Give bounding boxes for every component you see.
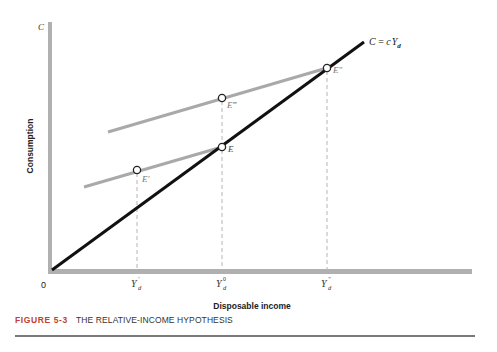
svg-text:′: ′ (138, 276, 140, 282)
y-axis-symbol: C (38, 22, 45, 32)
y-axis (48, 22, 52, 274)
svg-text:Y: Y (321, 278, 328, 289)
svg-text:″: ″ (328, 276, 331, 282)
label-e-triple: E‴ (226, 100, 237, 110)
point-e-double (323, 64, 330, 71)
label-e-double: E″ (332, 65, 342, 75)
origin-label: 0 (41, 280, 46, 290)
svg-text:d: d (223, 284, 227, 291)
long-run-line-label: C = cYd (369, 36, 401, 50)
point-e (218, 143, 225, 150)
x-axis (48, 269, 472, 274)
label-e: E (227, 144, 234, 154)
tick-y-prime: Y ′ d (131, 276, 142, 291)
caption-divider (15, 335, 475, 337)
relative-income-diagram: E′ E E‴ E″ C = cYd C Consumption 0 Dispo… (0, 0, 497, 352)
svg-text:d: d (138, 284, 142, 291)
point-e-prime (133, 166, 140, 173)
x-axis-label: Disposable income (213, 301, 291, 311)
point-e-triple (218, 94, 225, 101)
figure-caption: FIGURE 5-3 THE RELATIVE-INCOME HYPOTHESI… (15, 315, 233, 325)
svg-text:Y: Y (131, 278, 138, 289)
tick-y-double: Y ″ d (321, 276, 332, 291)
tick-y-zero: Y 0 d (216, 276, 227, 291)
y-axis-label: Consumption (25, 119, 35, 174)
figure-title: THE RELATIVE-INCOME HYPOTHESIS (76, 315, 233, 325)
svg-text:Y: Y (216, 278, 223, 289)
svg-text:d: d (328, 284, 332, 291)
figure-number: FIGURE 5-3 (15, 315, 68, 325)
label-e-prime: E′ (141, 174, 150, 184)
svg-text:0: 0 (223, 276, 226, 282)
short-run-consumption-lower (84, 147, 222, 187)
long-run-consumption-line (52, 42, 364, 270)
short-run-consumption-upper (108, 68, 327, 132)
